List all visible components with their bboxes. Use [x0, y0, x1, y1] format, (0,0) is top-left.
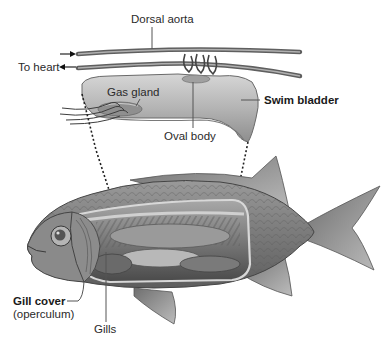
intestines — [180, 256, 240, 272]
label-gill-cover: Gill cover — [13, 295, 66, 307]
label-gas-gland: Gas gland — [107, 86, 159, 98]
pelvic-fin — [134, 288, 176, 324]
fish-anatomy-diagram: Dorsal aorta To heart Gas gland Swim bla… — [0, 0, 388, 342]
blood-vessels — [78, 49, 300, 76]
label-oval-body: Oval body — [164, 130, 216, 142]
arrow-right-icon — [70, 51, 76, 57]
oval-body — [182, 75, 210, 83]
tail-fin — [306, 186, 380, 270]
flow-arrows — [59, 51, 76, 70]
label-operculum: (operculum) — [13, 308, 75, 320]
label-swim-bladder: Swim bladder — [264, 94, 339, 106]
gas-gland — [98, 102, 142, 116]
arrow-left-icon — [59, 64, 65, 70]
label-to-heart: To heart — [18, 61, 60, 73]
label-dorsal-aorta: Dorsal aorta — [131, 13, 194, 25]
swim-bladder-in-body — [110, 224, 230, 248]
swim-bladder-detail — [60, 74, 258, 142]
label-gills: Gills — [94, 323, 117, 335]
